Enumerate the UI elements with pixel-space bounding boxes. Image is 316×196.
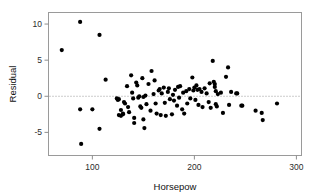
data-point: [143, 93, 147, 97]
data-point: [137, 94, 141, 98]
data-point: [162, 86, 166, 90]
data-point: [177, 96, 181, 100]
data-point: [121, 112, 125, 116]
data-point: [129, 73, 133, 77]
data-point: [90, 107, 94, 111]
data-point: [182, 112, 186, 116]
data-point: [123, 101, 127, 105]
plot-frame: [49, 13, 302, 156]
data-point: [167, 86, 171, 90]
data-point: [187, 87, 191, 91]
data-point: [173, 88, 177, 92]
data-point: [261, 118, 265, 122]
data-point: [140, 76, 144, 80]
data-point: [196, 103, 200, 107]
data-point: [194, 83, 198, 87]
data-point: [219, 91, 223, 95]
y-axis-title: Residual: [7, 66, 18, 103]
y-tick-label: 0: [37, 91, 42, 101]
data-point: [227, 103, 231, 107]
x-tick-label: 200: [187, 162, 201, 172]
data-point: [126, 105, 130, 109]
data-point: [149, 69, 153, 73]
data-point: [160, 91, 164, 95]
data-point: [226, 65, 230, 69]
data-point: [153, 78, 157, 82]
data-point: [117, 97, 121, 101]
data-point: [60, 48, 64, 52]
data-point: [207, 100, 211, 104]
data-point: [275, 101, 279, 105]
data-point: [125, 84, 129, 88]
data-point: [209, 106, 213, 110]
data-point: [193, 98, 197, 102]
data-point: [127, 110, 131, 114]
data-point: [215, 104, 219, 108]
data-point: [132, 116, 136, 120]
data-point: [139, 106, 143, 110]
y-axis-ticks: 1050-5: [33, 19, 49, 137]
data-point: [131, 96, 135, 100]
scatter-plot-svg: 1050-5 100200300 Residual Horsepow: [0, 0, 316, 196]
data-point: [166, 90, 170, 94]
data-point: [141, 117, 145, 121]
x-tick-label: 100: [85, 162, 99, 172]
data-point: [78, 20, 82, 24]
data-point: [151, 92, 155, 96]
data-points-group: [60, 20, 279, 146]
data-point: [240, 104, 244, 108]
x-axis-title: Horsepow: [154, 181, 197, 192]
data-point: [208, 81, 212, 85]
data-point: [97, 33, 101, 37]
data-point: [171, 93, 175, 97]
data-point: [148, 109, 152, 113]
data-point: [200, 105, 204, 109]
data-point: [175, 104, 179, 108]
data-point: [188, 96, 192, 100]
data-point: [229, 90, 233, 94]
data-point: [170, 112, 174, 116]
data-point: [235, 91, 239, 95]
data-point: [202, 86, 206, 90]
data-point: [130, 91, 134, 95]
y-tick-label: 5: [37, 55, 42, 65]
data-point: [164, 114, 168, 118]
data-point: [205, 91, 209, 95]
data-point: [132, 121, 136, 125]
data-point: [154, 101, 158, 105]
data-point: [178, 84, 182, 88]
data-point: [172, 99, 176, 103]
x-axis-ticks: 100200300: [85, 156, 303, 172]
data-point: [211, 59, 215, 63]
data-point: [185, 101, 189, 105]
data-point: [163, 101, 167, 105]
data-point: [155, 112, 159, 116]
data-point: [158, 87, 162, 91]
data-point: [79, 142, 83, 146]
data-point: [213, 85, 217, 89]
data-point: [224, 75, 228, 79]
data-point: [199, 90, 203, 94]
data-point: [260, 111, 264, 115]
chart-figure: 1050-5 100200300 Residual Horsepow: [0, 0, 316, 196]
data-point: [146, 82, 150, 86]
data-point: [104, 78, 108, 82]
data-point: [159, 113, 163, 117]
data-point: [221, 111, 225, 115]
data-point: [168, 97, 172, 101]
data-point: [190, 75, 194, 79]
data-point: [142, 126, 146, 130]
data-point: [144, 102, 148, 106]
data-point: [135, 83, 139, 87]
x-tick-label: 300: [289, 162, 303, 172]
data-point: [119, 108, 123, 112]
data-point: [78, 107, 82, 111]
y-tick-label: 10: [33, 19, 43, 29]
data-point: [253, 109, 257, 113]
y-tick-label: -5: [34, 127, 42, 137]
data-point: [97, 127, 101, 131]
data-point: [180, 107, 184, 111]
